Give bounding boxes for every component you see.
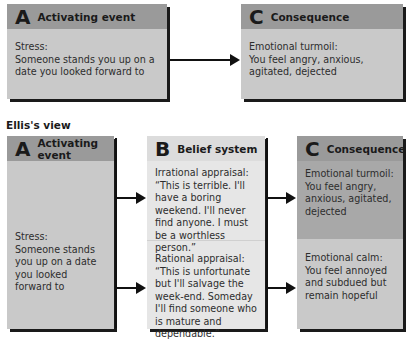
letter-c: C: [249, 7, 264, 27]
ellis-activating-event-box: A Activating event Stress: Someone stand…: [7, 136, 114, 329]
letter-a: A: [15, 7, 30, 27]
ellis-consequence-header: C Consequence: [297, 136, 403, 161]
arrow-b-to-c-turmoil: [267, 197, 294, 199]
stress-text: Someone stands you up on a date you look…: [15, 244, 106, 294]
activating-event-title: Activating event: [37, 137, 114, 161]
ellis-activating-event-body: Stress: Someone stands you up on a date …: [7, 161, 114, 302]
top-activating-event-header: A Activating event: [7, 4, 167, 29]
calm-text: You feel annoyed and subdued but remain …: [305, 265, 395, 303]
letter-a: A: [15, 139, 30, 159]
letter-c: C: [305, 139, 320, 159]
calm-label: Emotional calm:: [305, 252, 395, 265]
connector-a-vertical: [115, 138, 117, 328]
consequence-title: Consequence: [271, 11, 350, 23]
emotional-calm: Emotional calm: You feel annoyed and sub…: [297, 240, 403, 310]
ellis-consequence-box: C Consequence Emotional turmoil: You fee…: [297, 136, 403, 329]
stress-text: Someone stands you up on a date you look…: [15, 54, 155, 79]
belief-system-title: Belief system: [177, 143, 257, 155]
turmoil-label: Emotional turmoil:: [305, 168, 395, 181]
emotional-turmoil: Emotional turmoil: You feel angry, anxio…: [297, 161, 403, 239]
ellis-activating-event-header: A Activating event: [7, 136, 114, 161]
top-consequence-box: C Consequence Emotional turmoil: You fee…: [241, 4, 403, 99]
letter-b: B: [155, 139, 170, 159]
irrational-label: Irrational appraisal:: [155, 167, 257, 180]
turmoil-text: You feel angry, anxious, agitated, dejec…: [249, 54, 395, 79]
consequence-title: Consequence: [327, 143, 406, 155]
activating-event-title: Activating event: [37, 11, 135, 23]
top-arrow-a-to-c: [170, 59, 238, 61]
top-activating-event-box: A Activating event Stress: Someone stand…: [7, 4, 167, 99]
ellis-view-title: Ellis's view: [6, 119, 71, 131]
arrow-a-to-b-irrational: [116, 197, 144, 199]
arrow-a-to-b-rational: [116, 287, 144, 289]
rational-label: Rational appraisal:: [155, 253, 257, 266]
turmoil-text: You feel angry, anxious, agitated, dejec…: [305, 181, 395, 219]
rational-text: “This is unfortunate but I'll salvage th…: [155, 266, 257, 341]
arrow-b-to-c-calm: [267, 287, 294, 289]
belief-system-header: B Belief system: [147, 136, 265, 161]
top-activating-event-body: Stress: Someone stands you up on a date …: [7, 29, 167, 87]
top-consequence-header: C Consequence: [241, 4, 403, 29]
stress-label: Stress:: [15, 41, 159, 54]
top-consequence-body: Emotional turmoil: You feel angry, anxio…: [241, 29, 403, 87]
belief-system-box: B Belief system Irrational appraisal: “T…: [147, 136, 265, 329]
rational-appraisal: Rational appraisal: “This is unfortunate…: [147, 240, 265, 343]
connector-b-vertical: [266, 138, 268, 328]
stress-label: Stress:: [15, 231, 106, 244]
turmoil-label: Emotional turmoil:: [249, 41, 395, 54]
